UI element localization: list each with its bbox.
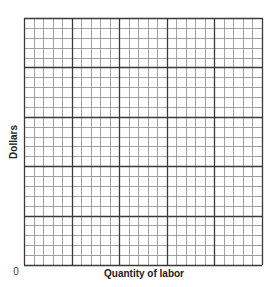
- blank-graph-chart: Quantity of labor Dollars 0: [0, 0, 277, 287]
- grid: [24, 18, 263, 266]
- x-axis-label: Quantity of labor: [104, 268, 184, 279]
- origin-label: 0: [13, 266, 19, 277]
- y-axis-label: Dollars: [8, 125, 19, 159]
